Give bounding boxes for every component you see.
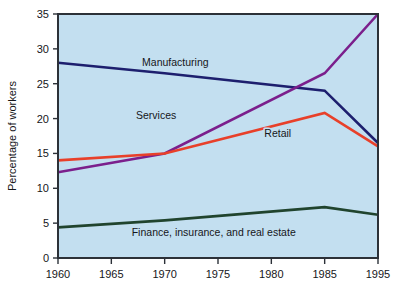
y-tick-label: 25 bbox=[37, 78, 49, 90]
y-tick-label: 10 bbox=[37, 182, 49, 194]
series-label-services: Services bbox=[136, 109, 176, 121]
y-tick-label: 0 bbox=[43, 252, 49, 264]
chart-container: 05101520253035 1960196519701975198019851… bbox=[0, 0, 408, 299]
plot-area-background bbox=[58, 14, 378, 258]
y-tick-label: 30 bbox=[37, 43, 49, 55]
x-tick-label: 1995 bbox=[366, 268, 390, 280]
series-label-manufacturing: Manufacturing bbox=[142, 56, 209, 68]
y-tick-label: 20 bbox=[37, 113, 49, 125]
x-tick-label: 1980 bbox=[259, 268, 283, 280]
x-axis-tick-labels: 1960196519701975198019851995 bbox=[46, 268, 390, 280]
x-tick-label: 1960 bbox=[46, 268, 70, 280]
x-tick-label: 1970 bbox=[152, 268, 176, 280]
series-label-retail: Retail bbox=[264, 127, 291, 139]
y-tick-label: 5 bbox=[43, 217, 49, 229]
x-tick-label: 1975 bbox=[206, 268, 230, 280]
line-chart-figure: 05101520253035 1960196519701975198019851… bbox=[0, 0, 408, 299]
y-axis-title: Percentage of workers bbox=[6, 80, 18, 191]
y-axis-tick-labels: 05101520253035 bbox=[37, 8, 49, 264]
x-tick-label: 1985 bbox=[312, 268, 336, 280]
y-tick-label: 35 bbox=[37, 8, 49, 20]
x-tick-label: 1965 bbox=[99, 268, 123, 280]
y-tick-label: 15 bbox=[37, 147, 49, 159]
series-label-finance: Finance, insurance, and real estate bbox=[132, 226, 296, 238]
